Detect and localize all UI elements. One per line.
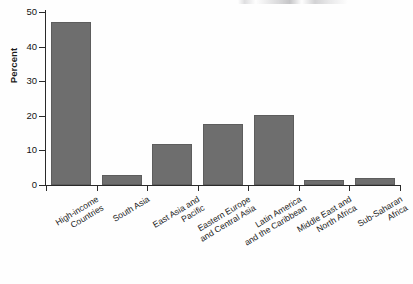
x-axis-tick [97,185,98,191]
y-axis-tick-label: 30 [14,75,37,86]
x-axis-tick [46,185,47,191]
x-axis-tick [248,185,249,191]
x-axis-tick [198,185,199,191]
y-axis-tick-label: 0 [14,179,37,190]
x-axis-tick [299,185,300,191]
bar [304,180,344,185]
bar [355,178,395,185]
scan-artifact [238,0,348,4]
y-axis-tick [39,116,46,117]
y-axis-tick [39,81,46,82]
x-axis-tick [349,185,350,191]
bar [51,22,91,185]
y-axis-tick [39,12,46,13]
x-axis-line [45,185,401,186]
bar [203,124,243,185]
bar [152,144,192,185]
x-axis-tick [147,185,148,191]
y-axis-tick-label: 20 [14,110,37,121]
y-axis-tick [39,150,46,151]
y-axis-tick-label: 40 [14,41,37,52]
bar-chart-figure: Percent 01020304050 High-income Countrie… [0,0,413,284]
plot-area [46,12,400,185]
y-axis-tick-label: 10 [14,144,37,155]
y-axis-tick-label: 50 [14,6,37,17]
y-axis-tick [39,185,46,186]
y-axis-tick [39,47,46,48]
bar [254,115,294,185]
bar [102,175,142,185]
x-axis-tick [400,185,401,191]
